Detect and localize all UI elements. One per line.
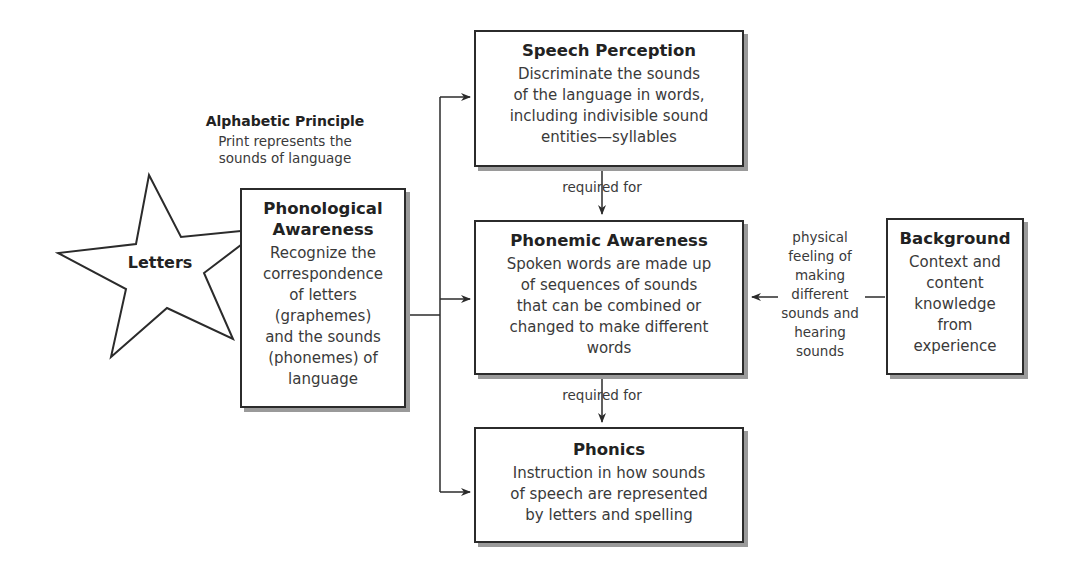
node-body-line: of the language in words, [476,85,742,106]
node-phonemic-awareness: Phonemic Awareness Spoken words are made… [474,220,744,375]
node-body-line: that can be combined or [476,296,742,317]
edge-label-line: hearing [772,323,868,342]
letters-star-label: Letters [110,254,210,271]
node-body-line: Instruction in how sounds [476,463,742,484]
node-body-line: from [888,315,1022,336]
edge-label-required-for: required for [552,179,652,196]
node-body-line: of letters [242,285,404,306]
node-body-line: (phonemes) of [242,348,404,369]
node-body-line: Spoken words are made up [476,254,742,275]
alphabetic-principle-line-1: Print represents the [195,133,375,150]
node-body-line: experience [888,336,1022,357]
node-body-line: entities—syllables [476,127,742,148]
node-background: Background Context and content knowledge… [886,218,1024,375]
node-body-line: words [476,338,742,359]
edge-label-line: making [772,266,868,285]
node-body-line: knowledge [888,294,1022,315]
node-title: Phonological [242,198,404,219]
node-body-line: Recognize the [242,243,404,264]
node-title: Phonemic Awareness [476,230,742,251]
node-speech-perception: Speech Perception Discriminate the sound… [474,30,744,167]
node-body-line: content [888,273,1022,294]
edge-label-required-for: required for [552,387,652,404]
node-body-line: of sequences of sounds [476,275,742,296]
node-body-line: Context and [888,252,1022,273]
node-phonological-awareness: Phonological Awareness Recognize the cor… [240,188,406,408]
alphabetic-principle-line-2: sounds of language [195,150,375,167]
node-body-line: (graphemes) [242,306,404,327]
node-title: Phonics [476,439,742,460]
node-body-line: including indivisible sound [476,106,742,127]
node-body-line: language [242,369,404,390]
node-body-line: by letters and spelling [476,505,742,526]
node-body-line: and the sounds [242,327,404,348]
node-body-line: Discriminate the sounds [476,64,742,85]
edge-label-line: physical [772,228,868,247]
edge-label-line: different [772,285,868,304]
node-phonics: Phonics Instruction in how sounds of spe… [474,427,744,543]
node-title: Awareness [242,219,404,240]
alphabetic-principle-title: Alphabetic Principle [195,113,375,130]
edge-label-line: sounds and [772,304,868,323]
edge-label-line: feeling of [772,247,868,266]
node-body-line: changed to make different [476,317,742,338]
alphabetic-principle-annotation: Alphabetic Principle Print represents th… [195,113,375,167]
edge-label-physical-feeling: physical feeling of making different sou… [772,228,868,361]
edge-label-line: sounds [772,342,868,361]
node-body-line: correspondence [242,264,404,285]
node-title: Background [888,228,1022,249]
node-title: Speech Perception [476,40,742,61]
node-body-line: of speech are represented [476,484,742,505]
